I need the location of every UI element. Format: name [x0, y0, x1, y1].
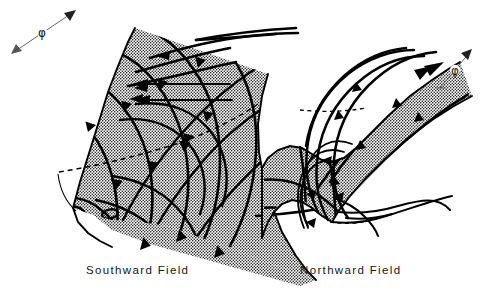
- magnetopause-field-diagram: φ: [0, 0, 484, 291]
- caption-northward-field: Northward Field: [300, 264, 401, 276]
- phi-symbol-south: φ: [38, 26, 46, 40]
- caption-southward-field: Southward Field: [86, 264, 189, 276]
- phi-symbol-north: φ: [451, 64, 459, 78]
